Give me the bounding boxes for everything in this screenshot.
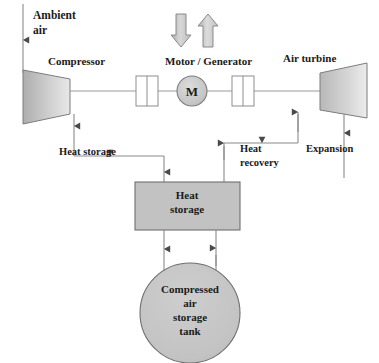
motor-generator-label: Motor / Generator bbox=[165, 55, 252, 67]
heat-storage-box-label-line2: storage bbox=[170, 203, 204, 215]
heat-recovery-label-line1: Heat bbox=[240, 143, 262, 154]
heat-storage-path-label: Heat storage bbox=[59, 146, 116, 157]
heat-recovery-label-line2: recovery bbox=[240, 157, 280, 168]
compressor-body bbox=[23, 70, 70, 124]
clutch-right bbox=[232, 76, 254, 106]
motor-symbol-label: M bbox=[186, 84, 198, 99]
heat-storage-box-label-line1: Heat bbox=[176, 189, 199, 201]
electricity-out-arrow bbox=[198, 14, 218, 47]
clutch-left bbox=[136, 76, 158, 106]
tank-label-line1: Compressed bbox=[161, 283, 219, 295]
expansion-label: Expansion bbox=[306, 143, 353, 154]
air-turbine-label: Air turbine bbox=[283, 52, 336, 64]
motor-generator-unit: M bbox=[177, 76, 207, 106]
air-turbine-body bbox=[320, 63, 367, 118]
ambient-air-label-line1: Ambient bbox=[33, 9, 76, 21]
tank-label-line2: air bbox=[183, 297, 197, 309]
diagram-canvas: Ambient air Compressor M Motor / Generat… bbox=[0, 0, 379, 363]
ambient-air-label-line2: air bbox=[33, 24, 47, 36]
compressor-label: Compressor bbox=[48, 55, 105, 67]
tank-label-line4: tank bbox=[179, 325, 201, 337]
cycle-diagram: Ambient air Compressor M Motor / Generat… bbox=[0, 0, 379, 363]
electricity-in-arrow bbox=[171, 14, 191, 47]
tank-label-line3: storage bbox=[173, 311, 207, 323]
